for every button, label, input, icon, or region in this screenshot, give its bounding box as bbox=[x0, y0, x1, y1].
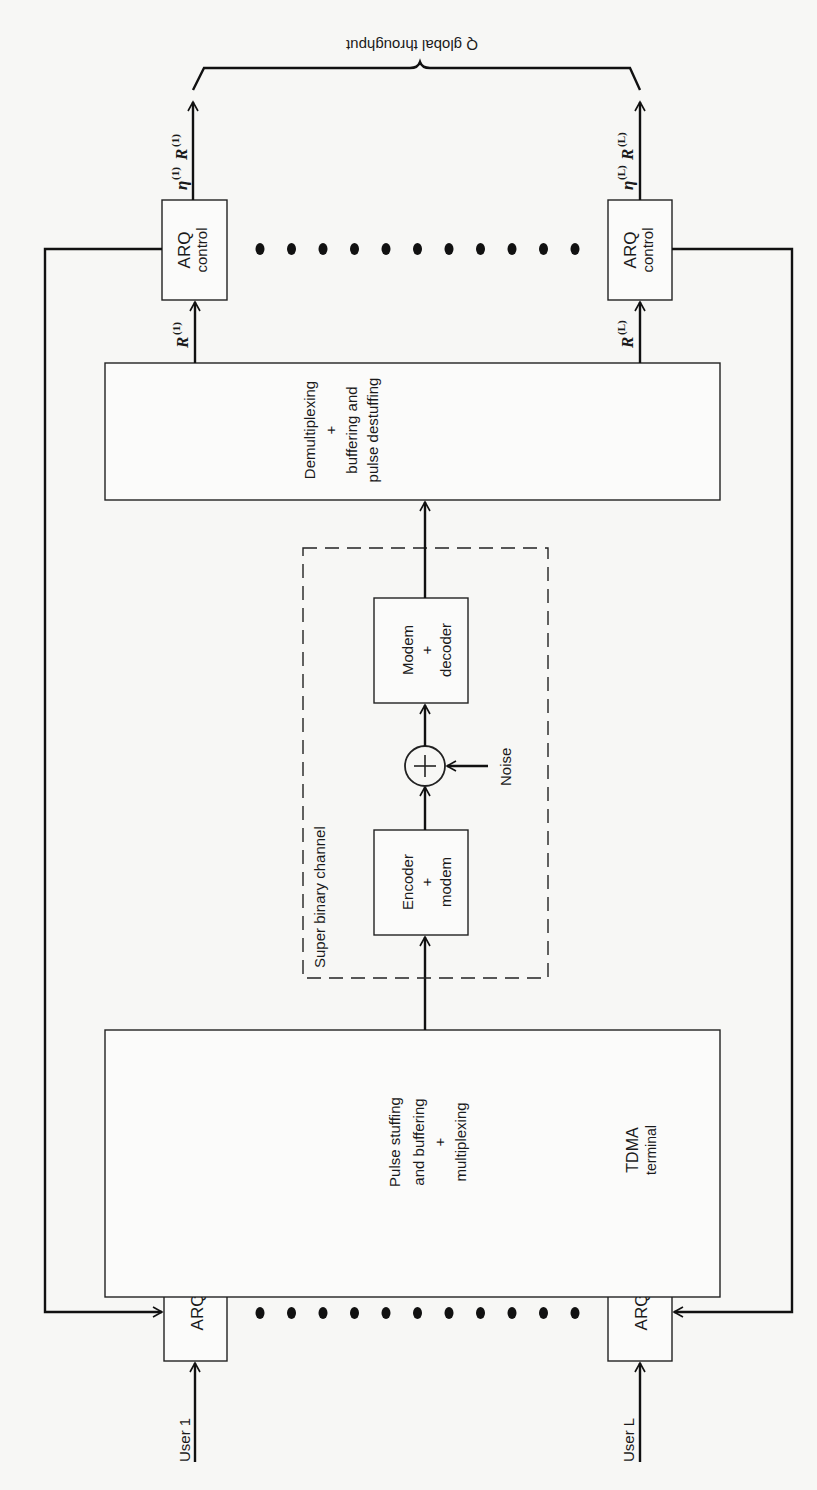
svg-text:+: + bbox=[431, 1137, 448, 1146]
ellipsis-dot bbox=[287, 243, 296, 255]
ellipsis-dot bbox=[287, 1307, 296, 1319]
ellipsis-dot bbox=[319, 243, 328, 255]
ellipsis-dot bbox=[256, 1307, 265, 1319]
svg-text:(L): (L) bbox=[615, 320, 628, 335]
global-throughput-brace bbox=[193, 62, 640, 90]
ellipsis-dot bbox=[508, 1307, 517, 1319]
svg-text:R: R bbox=[618, 149, 637, 161]
svg-text:pulse destuffing: pulse destuffing bbox=[364, 378, 381, 483]
svg-text:η: η bbox=[618, 181, 637, 190]
svg-text:and buffering: and buffering bbox=[410, 1098, 427, 1185]
diagram-canvas: User 1 User L ARQ ARQ R (1) R (L) Pulse … bbox=[0, 0, 817, 1490]
svg-text:+: + bbox=[418, 645, 435, 654]
svg-text:Demultiplexing: Demultiplexing bbox=[301, 381, 318, 479]
ellipsis-dot bbox=[445, 243, 454, 255]
ellipsis-dot bbox=[571, 1307, 580, 1319]
ellipsis-dot bbox=[382, 243, 391, 255]
svg-text:ARQ: ARQ bbox=[621, 232, 640, 269]
svg-text:decoder: decoder bbox=[437, 623, 454, 677]
user-l-label: User L bbox=[620, 1418, 637, 1462]
arq-control-user-l-text: ARQ control bbox=[621, 227, 656, 272]
svg-text:terminal: terminal bbox=[643, 1125, 659, 1175]
ellipsis-dots-bottom bbox=[256, 1307, 580, 1319]
demux-block bbox=[105, 363, 720, 500]
svg-text:Modem: Modem bbox=[399, 625, 416, 675]
rate-label-user-l-out: R (L) bbox=[615, 320, 637, 349]
ellipsis-dot bbox=[476, 243, 485, 255]
svg-text:Pulse stuffing: Pulse stuffing bbox=[386, 1097, 403, 1187]
global-throughput-label: Q global throughput bbox=[345, 37, 478, 54]
svg-text:(1): (1) bbox=[170, 322, 183, 335]
svg-text:(1): (1) bbox=[169, 134, 182, 147]
svg-text:+: + bbox=[322, 425, 339, 434]
ellipsis-dot bbox=[413, 243, 422, 255]
svg-text:(L): (L) bbox=[615, 165, 628, 180]
svg-text:(1): (1) bbox=[169, 167, 182, 180]
arq-box-user-1-label: ARQ bbox=[188, 1294, 207, 1331]
ellipsis-dot bbox=[476, 1307, 485, 1319]
ellipsis-dot bbox=[539, 1307, 548, 1319]
svg-text:ARQ: ARQ bbox=[175, 232, 194, 269]
svg-text:multiplexing: multiplexing bbox=[452, 1102, 469, 1181]
svg-text:Encoder: Encoder bbox=[399, 854, 416, 910]
ellipsis-dot bbox=[539, 243, 548, 255]
svg-text:+: + bbox=[418, 877, 435, 886]
rate-label-user-1-out: R (1) bbox=[170, 322, 192, 349]
svg-text:control: control bbox=[193, 227, 210, 272]
ellipsis-dot bbox=[256, 243, 265, 255]
arq-box-user-l-label: ARQ bbox=[632, 1294, 651, 1331]
ellipsis-dot bbox=[445, 1307, 454, 1319]
throughput-label-user-l: η (L) R (L) bbox=[615, 132, 637, 190]
ellipsis-dot bbox=[382, 1307, 391, 1319]
svg-text:η: η bbox=[172, 181, 191, 190]
noise-label: Noise bbox=[497, 748, 514, 786]
svg-text:(L): (L) bbox=[615, 132, 628, 147]
super-binary-channel-label: Super binary channel bbox=[311, 826, 328, 968]
svg-text:control: control bbox=[639, 227, 656, 272]
ellipsis-dot bbox=[571, 243, 580, 255]
svg-text:TDMA: TDMA bbox=[624, 1127, 641, 1173]
ellipsis-dot bbox=[413, 1307, 422, 1319]
svg-text:buffering and: buffering and bbox=[343, 386, 360, 473]
svg-text:R: R bbox=[172, 149, 191, 161]
svg-text:modem: modem bbox=[437, 857, 454, 907]
ellipsis-dot bbox=[350, 243, 359, 255]
ellipsis-dot bbox=[319, 1307, 328, 1319]
svg-text:R: R bbox=[618, 337, 637, 349]
ellipsis-dot bbox=[350, 1307, 359, 1319]
ellipsis-dots-top bbox=[256, 243, 580, 255]
user-1-label: User 1 bbox=[176, 1418, 193, 1462]
svg-text:R: R bbox=[173, 337, 192, 349]
throughput-label-user-1: η (1) R (1) bbox=[169, 134, 191, 190]
arq-control-user-1-text: ARQ control bbox=[175, 227, 210, 272]
ellipsis-dot bbox=[508, 243, 517, 255]
